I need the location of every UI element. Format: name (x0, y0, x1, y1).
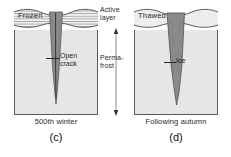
panel-caption-d: (d) (134, 131, 218, 143)
label-active-layer: Active layer (100, 6, 120, 21)
permafrost-depth-arrow (113, 28, 119, 116)
leader-line-open-crack (46, 58, 60, 59)
leader-line-ice (164, 62, 176, 63)
ice-wedge-c (14, 8, 98, 115)
label-permafrost: Perma- frost (100, 54, 124, 69)
surface-tag-frozen: Frozen (18, 11, 43, 20)
center-annotation-column: Active layer Perma- frost (98, 6, 134, 118)
surface-tag-thawed: Thawed (138, 11, 166, 20)
permafrost-ice-wedge-figure: Frozen Open crack Active layer Perma- fr… (0, 0, 231, 157)
panel-c (14, 8, 98, 115)
label-open-crack: Open crack (60, 52, 77, 67)
sub-caption-c: 500th winter (14, 117, 98, 126)
label-ice: Ice (176, 57, 185, 65)
panel-c-body (14, 8, 98, 115)
panel-caption-c: (c) (14, 131, 98, 143)
sub-caption-d: Following autumn (134, 117, 218, 126)
